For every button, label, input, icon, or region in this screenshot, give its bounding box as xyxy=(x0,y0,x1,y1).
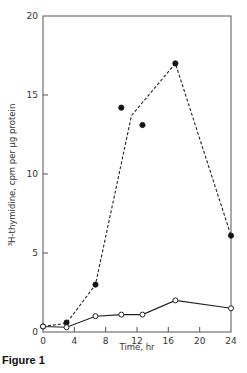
y-tick-label: 5 xyxy=(32,248,38,258)
x-tick-label: 4 xyxy=(71,336,77,346)
x-axis-title: Time, hr xyxy=(118,342,155,352)
filled-data-point xyxy=(93,282,98,287)
open-data-point xyxy=(93,314,98,319)
x-tick-label: 8 xyxy=(103,336,109,346)
x-tick-label: 0 xyxy=(40,336,46,346)
open-data-point xyxy=(173,298,178,303)
y-tick-label: 10 xyxy=(27,169,39,179)
y-tick-label: 15 xyxy=(27,90,38,100)
x-tick-label: 20 xyxy=(194,336,206,346)
y-axis-title: ³H-thymidine, cpm per µg protein xyxy=(7,104,17,247)
y-tick-label: 20 xyxy=(27,11,39,21)
open-data-point xyxy=(140,312,145,317)
open-data-point xyxy=(119,312,124,317)
series-line xyxy=(43,300,231,327)
chart: 0481216202405101520 Time, hr ³H-thymidin… xyxy=(0,0,247,373)
axis-ticks: 0481216202405101520 xyxy=(27,11,237,346)
y-tick-label: 0 xyxy=(32,327,38,337)
filled-data-point xyxy=(140,122,145,127)
series-line xyxy=(43,63,231,326)
x-tick-label: 16 xyxy=(163,336,175,346)
open-data-point xyxy=(229,306,234,311)
filled-data-point xyxy=(119,105,124,110)
open-data-point xyxy=(41,324,46,329)
filled-data-point xyxy=(173,61,178,66)
open-data-point xyxy=(64,325,69,330)
data-series xyxy=(40,61,233,330)
filled-data-point xyxy=(228,233,233,238)
figure-caption: Figure 1 xyxy=(2,354,45,366)
x-tick-label: 24 xyxy=(225,336,237,346)
plot-border xyxy=(43,16,231,332)
plot-frame xyxy=(43,16,231,332)
